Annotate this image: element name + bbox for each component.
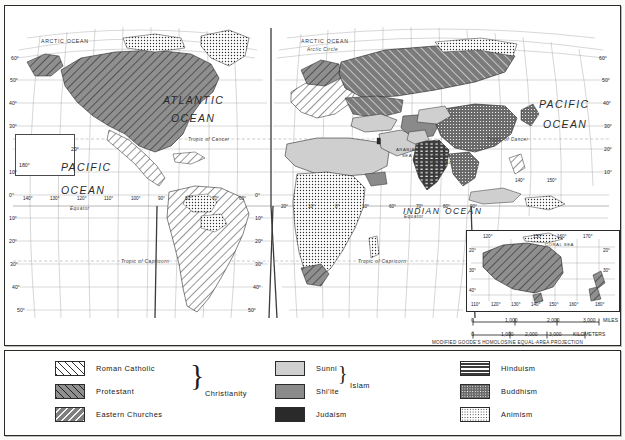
inset-box-180 (15, 134, 75, 176)
legend-item-roman-catholic[interactable]: Roman Catholic (55, 361, 155, 376)
scale-miles-unit: MILES (603, 317, 618, 323)
brace-christianity: } (190, 360, 204, 390)
swatch-eastern-churches (55, 407, 85, 422)
legend-label-judaism: Judaism (316, 410, 347, 419)
legend-label-hinduism: Hinduism (501, 364, 535, 373)
legend-label-eastern-churches: Eastern Churches (96, 410, 162, 419)
scale-miles-tick-0: 0 (471, 317, 474, 323)
swatch-hinduism (460, 361, 490, 376)
legend-item-sunni[interactable]: Sunni (275, 361, 337, 376)
scale-miles-tick-3: 3,000 (583, 317, 596, 323)
scale-km-unit: KILOMETERS (573, 331, 605, 337)
swatch-protestant (55, 384, 85, 399)
brace-islam: } (338, 363, 348, 383)
legend-item-protestant[interactable]: Protestant (55, 384, 134, 399)
legend-item-buddhism[interactable]: Buddhism (460, 384, 537, 399)
scale-miles-tick-2: 2,000 (547, 317, 560, 323)
legend-label-shiite: Shi'ite (316, 387, 339, 396)
legend-label-roman-catholic: Roman Catholic (96, 364, 155, 373)
region-israel (377, 138, 380, 144)
scale-km-tick-2: 2,000 (525, 331, 538, 337)
map-panel: 180° ATLANTIC OCEAN PACIFIC OCEAN PACIFI… (4, 5, 621, 346)
swatch-sunni (275, 361, 305, 376)
legend-group-islam: Islam (350, 381, 370, 390)
world-religions-map-page: 180° ATLANTIC OCEAN PACIFIC OCEAN PACIFI… (0, 0, 625, 440)
legend-label-animism: Animism (501, 410, 532, 419)
legend-label-protestant: Protestant (96, 387, 134, 396)
projection-note: MODIFIED GOODE'S HOMOLOSINE EQUAL-AREA P… (432, 340, 583, 345)
swatch-judaism (275, 407, 305, 422)
legend-item-shiite[interactable]: Shi'ite (275, 384, 339, 399)
scale-km-tick-0: 0 (471, 331, 474, 337)
legend-item-hinduism[interactable]: Hinduism (460, 361, 535, 376)
legend-item-judaism[interactable]: Judaism (275, 407, 347, 422)
legend-item-animism[interactable]: Animism (460, 407, 532, 422)
legend-item-eastern-churches[interactable]: Eastern Churches (55, 407, 162, 422)
australia-inset (466, 230, 620, 312)
swatch-shiite (275, 384, 305, 399)
legend-panel: Roman Catholic Protestant Eastern Church… (4, 350, 621, 436)
swatch-buddhism (460, 384, 490, 399)
scale-miles-tick-1: 1,000 (505, 317, 518, 323)
legend-label-sunni: Sunni (316, 364, 337, 373)
swatch-animism (460, 407, 490, 422)
scale-km-tick-1: 1,000 (501, 331, 514, 337)
swatch-roman-catholic (55, 361, 85, 376)
scale-km-tick-3: 3,000 (549, 331, 562, 337)
legend-label-buddhism: Buddhism (501, 387, 537, 396)
legend-group-christianity: Christianity (205, 389, 247, 398)
